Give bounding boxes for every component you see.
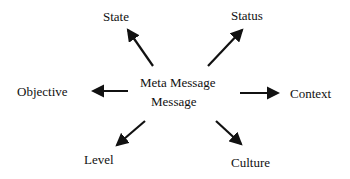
center-line-2: Message (151, 94, 197, 109)
node-level: Level (84, 152, 114, 167)
node-context: Context (290, 86, 331, 101)
diagram-canvas: State Status Objective Context Level Cul… (0, 0, 350, 179)
arrow-to-culture (216, 121, 241, 144)
arrow-to-level (117, 121, 145, 145)
node-state: State (103, 9, 129, 24)
arrow-to-status (208, 30, 242, 66)
node-culture: Culture (231, 155, 270, 170)
node-status: Status (231, 8, 263, 23)
node-objective: Objective (17, 84, 68, 99)
center-line-1: Meta Message (140, 75, 215, 90)
arrow-to-state (128, 30, 153, 66)
